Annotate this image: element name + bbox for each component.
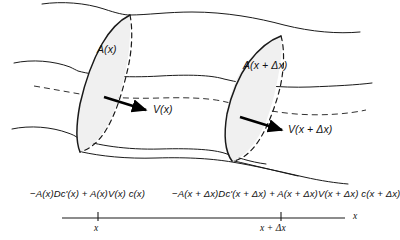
cross-section-left (77, 15, 132, 152)
velocity-label-left: V(x) (153, 104, 173, 115)
velocity-label-right: V(x + Δx) (288, 124, 332, 135)
cross-section-right (225, 36, 283, 161)
tube-curve-top-front (14, 61, 372, 87)
cross-section-right-fill (225, 36, 282, 161)
x-axis-tick-label-x: x (94, 224, 98, 234)
tube-outline-group (12, 3, 372, 184)
flux-expression-right: −A(x + Δx)Dc'(x + Δx) + A(x + Δx)V(x + Δ… (172, 189, 400, 199)
x-axis-group (62, 212, 345, 221)
area-label-left: A(x) (97, 44, 117, 55)
x-axis-label: x (353, 212, 357, 222)
x-axis-tick-label-x-delta: x + Δx (260, 224, 286, 234)
flux-expression-left: −A(x)Dc'(x) + A(x)V(x) c(x) (30, 189, 145, 199)
tube-curve-bottom-back-right (234, 161, 298, 176)
tube-curve-top-back (42, 3, 360, 33)
tube-curve-bottom-front (82, 152, 348, 184)
area-label-right: A(x + Δx) (243, 60, 287, 71)
